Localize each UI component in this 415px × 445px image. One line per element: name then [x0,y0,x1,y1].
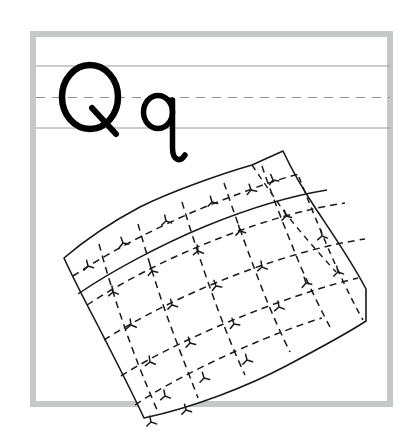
handwriting-worksheet: Letter Q q handwriting practice with qui… [0,0,415,445]
worksheet-canvas [0,0,415,445]
